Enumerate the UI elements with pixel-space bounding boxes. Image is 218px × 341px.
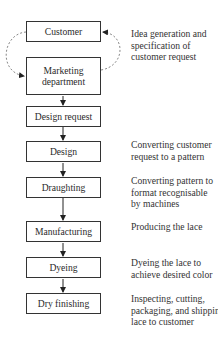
- step-label-line-2: department: [42, 76, 85, 87]
- note-line: Inspecting, cutting,: [131, 293, 218, 305]
- note-line: lace to customer: [131, 316, 218, 328]
- step-label: Design: [50, 146, 77, 157]
- step-label: Manufacturing: [35, 226, 92, 237]
- step-marketing-department: Marketing department: [26, 57, 101, 95]
- note-line: Dyeing the lace to: [131, 257, 213, 269]
- step-label: Design request: [35, 111, 92, 122]
- note-design: Converting customer request to a pattern: [131, 139, 212, 162]
- step-dyeing: Dyeing: [26, 257, 101, 278]
- note-line: Converting customer: [131, 139, 212, 151]
- step-customer: Customer: [26, 21, 101, 42]
- dashed-arc-marketing-to-customer: [101, 32, 120, 70]
- step-design-request: Design request: [26, 106, 101, 127]
- note-idea-generation: Idea generation and specification of cus…: [131, 28, 207, 63]
- step-label: Draughting: [42, 182, 86, 193]
- step-label-line-1: Marketing: [44, 65, 84, 76]
- note-dry-finishing: Inspecting, cutting, packaging, and ship…: [131, 293, 218, 328]
- note-line: by machines: [131, 198, 213, 210]
- step-design: Design: [26, 141, 101, 162]
- note-line: packaging, and shipping: [131, 305, 218, 317]
- note-line: customer request: [131, 51, 207, 63]
- note-line: format recognisable: [131, 187, 213, 199]
- step-draughting: Draughting: [26, 177, 101, 198]
- dashed-arc-customer-to-marketing: [6, 32, 26, 76]
- note-draughting: Converting pattern to format recognisabl…: [131, 175, 213, 210]
- step-label: Dyeing: [49, 262, 77, 273]
- note-line: request to a pattern: [131, 151, 212, 163]
- note-line: Converting pattern to: [131, 175, 213, 187]
- step-label: Dry finishing: [38, 298, 89, 309]
- step-manufacturing: Manufacturing: [26, 221, 101, 242]
- note-dyeing: Dyeing the lace to achieve desired color: [131, 257, 213, 280]
- step-dry-finishing: Dry finishing: [26, 293, 101, 314]
- note-line: specification of: [131, 40, 207, 52]
- step-label: Customer: [45, 26, 82, 37]
- note-line: Producing the lace: [131, 221, 202, 233]
- note-line: Idea generation and: [131, 28, 207, 40]
- note-manufacturing: Producing the lace: [131, 221, 202, 233]
- note-line: achieve desired color: [131, 269, 213, 281]
